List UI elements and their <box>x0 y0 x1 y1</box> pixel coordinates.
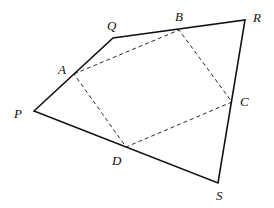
label-s: S <box>216 188 223 203</box>
vertex-labels: P Q R S A B C D <box>13 9 261 203</box>
label-c: C <box>240 94 249 109</box>
label-q: Q <box>107 18 117 33</box>
label-b: B <box>175 9 183 24</box>
label-r: R <box>252 10 261 25</box>
label-a: A <box>57 62 66 77</box>
outer-quadrilateral-pqrs <box>34 20 245 183</box>
inner-quadrilateral-abcd <box>74 30 232 147</box>
label-p: P <box>13 106 22 121</box>
geometry-diagram: P Q R S A B C D <box>0 0 274 208</box>
label-d: D <box>111 153 122 168</box>
